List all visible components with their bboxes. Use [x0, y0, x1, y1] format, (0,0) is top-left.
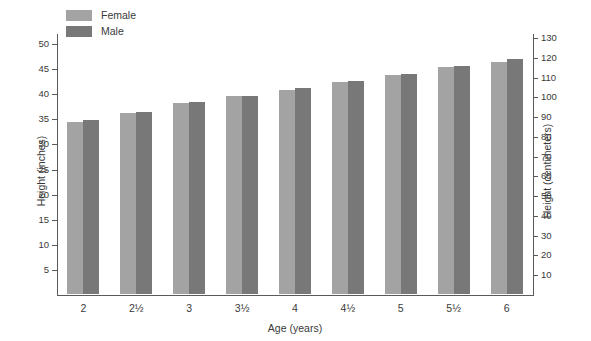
- y-tick-left: [52, 270, 57, 271]
- y-tick-right: [533, 137, 538, 138]
- bar-chart: Female Male Height (inches) Height (cent…: [0, 0, 591, 341]
- y-tick-right: [533, 236, 538, 237]
- bar-male-3: [242, 96, 258, 294]
- x-tick-label: 5: [398, 302, 404, 314]
- y-tick-label-left: 35: [38, 115, 49, 125]
- y-tick-label-right: 110: [541, 73, 556, 83]
- bar-male-4: [295, 88, 311, 294]
- y-tick-right: [533, 157, 538, 158]
- bar-female-4: [279, 90, 295, 294]
- bar-male-6: [401, 74, 417, 294]
- y-tick-label-right: 50: [541, 191, 552, 201]
- y-tick-label-left: 25: [38, 165, 49, 175]
- y-tick-label-left: 45: [38, 64, 49, 74]
- y-tick-right: [533, 117, 538, 118]
- y-tick-label-left: 40: [38, 89, 49, 99]
- bar-male-7: [454, 66, 470, 294]
- y-tick-label-right: 70: [541, 152, 552, 162]
- y-tick-label-right: 30: [541, 231, 552, 241]
- y-tick-label-right: 40: [541, 211, 552, 221]
- x-tick-label: 4: [292, 302, 298, 314]
- y-tick-label-right: 90: [541, 112, 552, 122]
- x-axis-title: Age (years): [268, 322, 322, 334]
- x-tick-label: 3: [186, 302, 192, 314]
- legend-swatch-female-icon: [66, 10, 92, 21]
- y-tick-left: [52, 44, 57, 45]
- bar-male-1: [136, 112, 152, 294]
- x-tick-label: 2: [81, 302, 87, 314]
- y-tick-right: [533, 255, 538, 256]
- bar-female-5: [332, 82, 348, 294]
- bar-male-8: [507, 59, 523, 294]
- y-tick-right: [533, 176, 538, 177]
- bar-female-2: [173, 103, 189, 294]
- x-tick-label: 2½: [129, 302, 144, 314]
- y-tick-left: [52, 220, 57, 221]
- y-tick-right: [533, 97, 538, 98]
- y-tick-label-right: 130: [541, 33, 557, 43]
- y-tick-right: [533, 38, 538, 39]
- y-tick-label-right: 120: [541, 53, 557, 63]
- x-tick-label: 6: [504, 302, 510, 314]
- y-tick-left: [52, 245, 57, 246]
- y-tick-label-left: 30: [38, 140, 49, 150]
- bar-male-5: [348, 81, 364, 294]
- x-axis-line: [57, 295, 534, 296]
- bar-female-3: [226, 96, 242, 294]
- bar-female-7: [438, 67, 454, 294]
- y-tick-right: [533, 216, 538, 217]
- bar-female-8: [491, 62, 507, 294]
- y-tick-left: [52, 170, 57, 171]
- x-tick-label: 5½: [446, 302, 461, 314]
- bar-female-0: [67, 122, 83, 294]
- y-tick-label-left: 50: [38, 39, 49, 49]
- bar-female-6: [385, 75, 401, 294]
- y-tick-right: [533, 58, 538, 59]
- y-tick-right: [533, 275, 538, 276]
- y-tick-label-right: 20: [541, 251, 552, 261]
- y-axis-left-line: [57, 34, 58, 296]
- x-tick-label: 4½: [341, 302, 356, 314]
- bar-male-0: [83, 120, 99, 294]
- bar-male-2: [189, 102, 205, 294]
- y-tick-label-right: 100: [541, 93, 557, 103]
- y-tick-left: [52, 144, 57, 145]
- legend-label-female: Female: [101, 10, 136, 21]
- y-tick-left: [52, 119, 57, 120]
- y-axis-right-line: [533, 34, 534, 296]
- y-tick-left: [52, 94, 57, 95]
- y-tick-left: [52, 195, 57, 196]
- y-tick-left: [52, 69, 57, 70]
- y-tick-right: [533, 196, 538, 197]
- y-tick-right: [533, 78, 538, 79]
- y-tick-label-left: 15: [38, 215, 49, 225]
- y-tick-label-left: 10: [38, 240, 49, 250]
- y-tick-label-right: 60: [541, 172, 552, 182]
- bar-female-1: [120, 113, 136, 294]
- x-tick-label: 3½: [235, 302, 250, 314]
- y-tick-label-right: 10: [541, 270, 552, 280]
- plot-area: 5101520253035404550 10203040506070809010…: [57, 34, 533, 295]
- y-tick-label-left: 20: [38, 190, 49, 200]
- y-tick-label-right: 80: [541, 132, 552, 142]
- legend-item-female: Female: [66, 10, 136, 21]
- y-tick-label-left: 5: [44, 265, 49, 275]
